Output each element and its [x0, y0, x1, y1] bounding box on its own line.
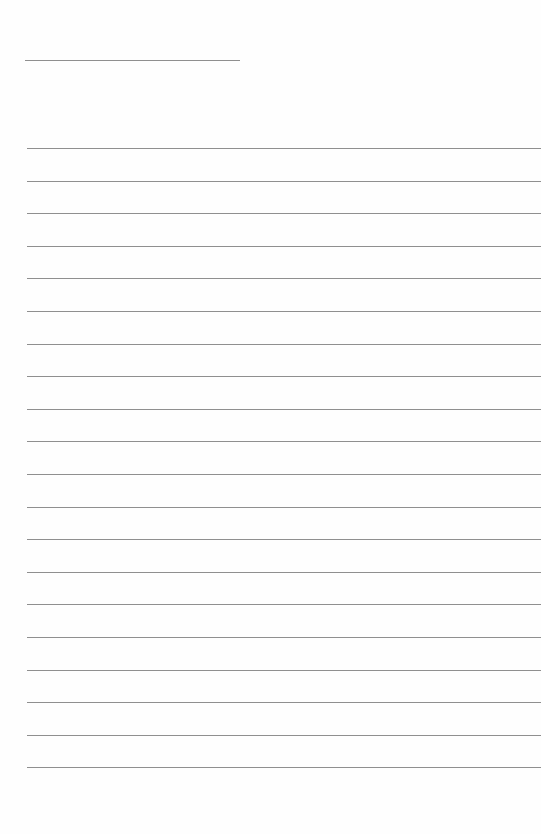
ruled-line [27, 344, 541, 345]
ruled-line [27, 376, 541, 377]
ruled-line [27, 572, 541, 573]
ruled-line [27, 278, 541, 279]
ruled-line [27, 311, 541, 312]
ruled-line [27, 507, 541, 508]
ruled-line [27, 474, 541, 475]
ruled-line [27, 148, 541, 149]
ruled-line [27, 441, 541, 442]
ruled-line [27, 702, 541, 703]
ruled-line [27, 213, 541, 214]
ruled-line [27, 767, 541, 768]
ruled-line [27, 409, 541, 410]
ruled-line [27, 735, 541, 736]
ruled-line [27, 604, 541, 605]
title-line [25, 60, 240, 61]
ruled-line [27, 246, 541, 247]
ruled-line [27, 637, 541, 638]
ruled-line [27, 670, 541, 671]
ruled-line [27, 539, 541, 540]
ruled-line [27, 181, 541, 182]
